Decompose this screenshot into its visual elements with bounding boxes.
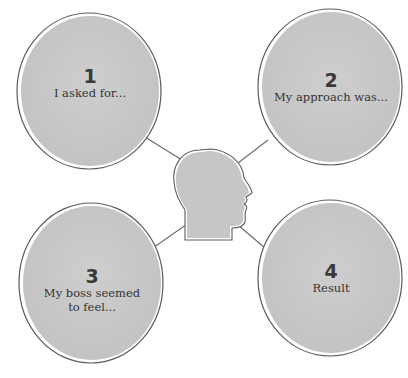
bubble-4: 4 Result bbox=[276, 261, 386, 295]
bubble-3: 3 My boss seemed to feel... bbox=[40, 266, 144, 314]
bubble-1: 1 I asked for... bbox=[30, 66, 150, 100]
bubble-4-number: 4 bbox=[276, 261, 386, 281]
bubble-4-text: Result bbox=[276, 281, 386, 295]
head-profile-icon bbox=[174, 149, 252, 240]
bubble-1-text: I asked for... bbox=[30, 86, 150, 100]
diagram-canvas bbox=[0, 0, 408, 378]
bubble-1-number: 1 bbox=[30, 66, 150, 86]
bubble-2-text: My approach was... bbox=[266, 90, 396, 104]
bubble-2-number: 2 bbox=[266, 70, 396, 90]
bubble-3-number: 3 bbox=[40, 266, 144, 286]
bubble-3-text: My boss seemed to feel... bbox=[40, 286, 144, 314]
bubble-2: 2 My approach was... bbox=[266, 70, 396, 104]
